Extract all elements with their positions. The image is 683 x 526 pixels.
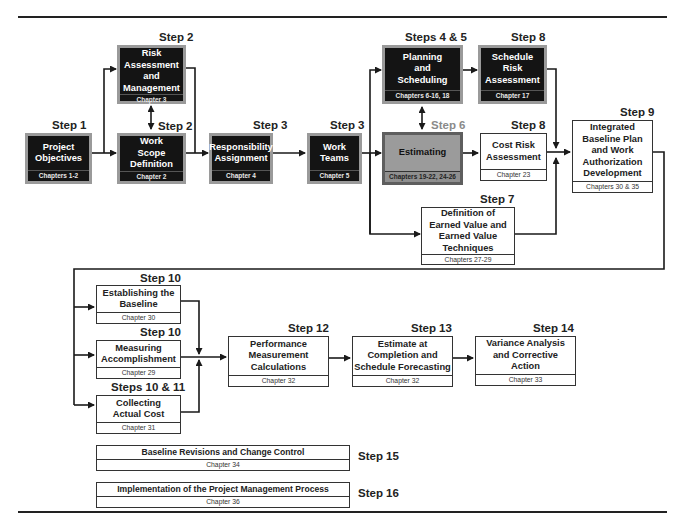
- step-label: Step 7: [480, 193, 515, 205]
- box-chapter: Chapter 2: [120, 171, 183, 182]
- box-chapter: Chapters 6-16, 18: [385, 90, 460, 101]
- step-label: Step 12: [288, 322, 329, 334]
- box-title: Integrated Baseline Plan and Work Author…: [573, 121, 652, 181]
- box-title: Collecting Actual Cost: [97, 396, 180, 422]
- bottom-rule: [18, 511, 667, 513]
- box-risk-assessment: Risk Assessment and Management Chapter 3: [117, 45, 186, 104]
- box-title: Project Objectives: [28, 136, 89, 170]
- box-title: Estimate at Completion and Schedule Fore…: [353, 337, 452, 375]
- box-chapter: Chapters 30 & 35: [573, 181, 652, 192]
- box-schedule-risk: Schedule Risk Assessment Chapter 17: [478, 45, 547, 104]
- box-implementation: Implementation of the Project Management…: [96, 482, 350, 508]
- box-establishing-baseline: Establishing the Baseline Chapter 30: [96, 285, 181, 324]
- box-integrated-baseline: Integrated Baseline Plan and Work Author…: [572, 120, 653, 193]
- box-title: Variance Analysis and Corrective Action: [476, 337, 575, 374]
- box-title: Baseline Revisions and Change Control: [97, 446, 349, 459]
- box-title: Schedule Risk Assessment: [481, 48, 544, 90]
- box-performance-measurement: Performance Measurement Calculations Cha…: [228, 336, 329, 387]
- box-baseline-revisions: Baseline Revisions and Change Control Ch…: [96, 445, 350, 471]
- box-title: Establishing the Baseline: [97, 286, 180, 312]
- box-title: Responsibility Assignment: [212, 136, 270, 170]
- box-planning-scheduling: Planning and Scheduling Chapters 6-16, 1…: [382, 45, 463, 104]
- box-earned-value: Definition of Earned Value and Earned Va…: [421, 207, 515, 265]
- step-label: Step 9: [620, 106, 655, 118]
- box-title: Risk Assessment and Management: [120, 48, 183, 94]
- box-work-teams: Work Teams Chapter 5: [307, 133, 362, 184]
- box-cost-risk: Cost Risk Assessment Chapter 23: [480, 133, 547, 181]
- step-label: Step 6: [431, 119, 466, 131]
- step-label: Step 3: [330, 119, 365, 131]
- box-responsibility: Responsibility Assignment Chapter 4: [209, 133, 273, 184]
- box-title: Implementation of the Project Management…: [97, 483, 349, 496]
- box-chapter: Chapter 29: [97, 367, 180, 378]
- top-rule: [18, 16, 667, 18]
- step-label: Step 8: [511, 31, 546, 43]
- box-title: Estimating: [385, 135, 460, 171]
- box-chapter: Chapter 32: [353, 375, 452, 386]
- box-chapter: Chapter 3: [120, 94, 183, 105]
- box-chapter: Chapter 30: [97, 312, 180, 323]
- step-label: Step 2: [159, 31, 194, 43]
- box-title: Performance Measurement Calculations: [229, 337, 328, 375]
- step-label: Step 10: [140, 326, 181, 338]
- box-chapter: Chapter 33: [476, 374, 575, 385]
- step-label: Step 1: [52, 119, 87, 131]
- box-chapter: Chapters 1-2: [28, 170, 89, 181]
- box-chapter: Chapter 23: [481, 169, 546, 180]
- box-chapter: Chapters 27-29: [422, 254, 514, 265]
- step-label: Step 8: [511, 119, 546, 131]
- box-chapter: Chapter 4: [212, 170, 270, 181]
- box-title: Planning and Scheduling: [385, 48, 460, 90]
- step-label: Step 15: [358, 450, 399, 462]
- box-title: Work Scope Definition: [120, 136, 183, 171]
- step-label: Step 16: [358, 487, 399, 499]
- box-chapter: Chapters 19-22, 24-26: [385, 171, 460, 182]
- box-estimate-at-completion: Estimate at Completion and Schedule Fore…: [352, 336, 453, 387]
- box-measuring-accomplishment: Measuring Accomplishment Chapter 29: [96, 340, 181, 379]
- box-project-objectives: Project Objectives Chapters 1-2: [25, 133, 92, 184]
- box-collecting-actual-cost: Collecting Actual Cost Chapter 31: [96, 395, 181, 434]
- box-variance-analysis: Variance Analysis and Corrective Action …: [475, 336, 576, 386]
- step-label: Step 3: [253, 119, 288, 131]
- box-chapter: Chapter 36: [97, 496, 349, 507]
- box-title: Measuring Accomplishment: [97, 341, 180, 367]
- box-chapter: Chapter 5: [310, 170, 359, 181]
- box-chapter: Chapter 31: [97, 422, 180, 433]
- box-title: Work Teams: [310, 136, 359, 170]
- box-chapter: Chapter 34: [97, 459, 349, 470]
- box-work-scope: Work Scope Definition Chapter 2: [117, 133, 186, 184]
- box-title: Cost Risk Assessment: [481, 134, 546, 169]
- box-chapter: Chapter 17: [481, 90, 544, 101]
- step-label: Step 13: [411, 322, 452, 334]
- step-label: Step 14: [533, 322, 574, 334]
- box-title: Definition of Earned Value and Earned Va…: [422, 208, 514, 254]
- step-label: Step 2: [158, 120, 193, 132]
- step-label: Step 10: [140, 272, 181, 284]
- step-label: Steps 10 & 11: [111, 381, 185, 393]
- box-estimating: Estimating Chapters 19-22, 24-26: [382, 132, 463, 185]
- step-label: Steps 4 & 5: [405, 31, 467, 43]
- box-chapter: Chapter 32: [229, 375, 328, 386]
